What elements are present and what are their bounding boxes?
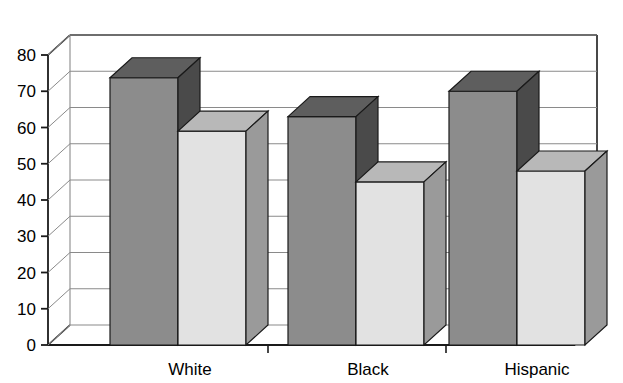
bar-side-face [424, 162, 446, 345]
bar-front-face [288, 117, 356, 345]
bar-black-series2 [356, 162, 446, 345]
y-tick-label-50: 50 [17, 155, 36, 174]
bar-front-face [178, 131, 246, 345]
y-tick-label-30: 30 [17, 227, 36, 246]
y-tick-label-20: 20 [17, 264, 36, 283]
bar-hispanic-series2 [517, 151, 607, 345]
x-category-label-black: Black [347, 360, 389, 379]
y-tick-label-80: 80 [17, 46, 36, 65]
y-tick-label-40: 40 [17, 191, 36, 210]
y-tick-label-70: 70 [17, 82, 36, 101]
bar-front-face [110, 78, 178, 345]
y-tick-label-10: 10 [17, 300, 36, 319]
y-tick-label-0: 0 [27, 336, 36, 355]
bar-side-face [585, 151, 607, 345]
bar-side-face [246, 111, 268, 345]
bar-front-face [356, 182, 424, 345]
y-tick-label-60: 60 [17, 119, 36, 138]
bar-front-face [449, 91, 517, 345]
x-category-label-white: White [168, 360, 211, 379]
chart-canvas: 80 70 60 50 40 30 20 10 0 [0, 0, 623, 383]
x-category-label-hispanic: Hispanic [504, 360, 570, 379]
bar-front-face [517, 171, 585, 345]
bar-white-series2 [178, 111, 268, 345]
bar-chart: 80 70 60 50 40 30 20 10 0 [0, 0, 623, 383]
y-axis-tick-labels: 80 70 60 50 40 30 20 10 0 [17, 46, 36, 355]
